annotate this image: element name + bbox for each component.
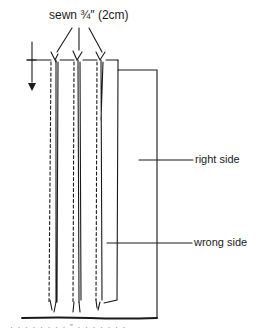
caption-partial: · · · · · · · · ‟ · · · · · · · [10, 322, 126, 329]
fold-line-1 [56, 60, 58, 302]
leader-line-pleat-3 [89, 28, 102, 52]
right-panel-edge [118, 60, 157, 318]
bottom-edge [22, 318, 157, 319]
pleat-top-1 [51, 52, 58, 62]
pleat-bottom-3 [96, 300, 100, 310]
stitch-line-2 [73, 62, 74, 302]
fold-line-3 [101, 60, 103, 300]
pleat-top-3 [96, 52, 105, 60]
seam-allowance-label: sewn ¾″ (2cm) [49, 8, 129, 22]
right-side-label: right side [195, 153, 240, 165]
pleat-top-2 [73, 51, 82, 60]
arrow-head-icon [28, 83, 36, 91]
pleat-bottom-1 [50, 300, 56, 312]
stitch-line-3 [96, 62, 97, 300]
fold-line-2 [78, 60, 81, 302]
pleat-bottom-2 [73, 302, 80, 312]
left-panel-edge [104, 70, 118, 303]
leader-line-pleat-1 [57, 28, 72, 52]
stitch-line-1 [49, 62, 51, 302]
wrong-side-label: wrong side [194, 236, 247, 248]
